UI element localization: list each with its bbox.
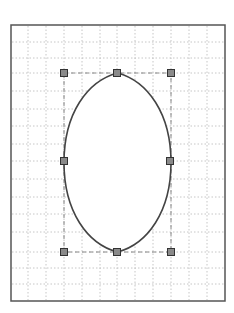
resize-handle-top-right[interactable] xyxy=(168,70,175,77)
resize-handle-top-left[interactable] xyxy=(61,70,68,77)
resize-handle-bottom-center[interactable] xyxy=(114,249,121,256)
resize-handle-middle-left[interactable] xyxy=(61,158,68,165)
resize-handle-top-center[interactable] xyxy=(114,70,121,77)
resize-handle-bottom-right[interactable] xyxy=(168,249,175,256)
resize-handle-middle-right[interactable] xyxy=(167,158,174,165)
shape-editor-canvas[interactable] xyxy=(0,0,234,313)
resize-handle-bottom-left[interactable] xyxy=(61,249,68,256)
